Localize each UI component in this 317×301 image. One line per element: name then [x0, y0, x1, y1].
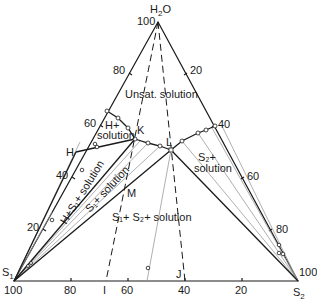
point-l-label: L — [166, 136, 172, 148]
point-k-label: K — [137, 124, 145, 136]
region-s2-solution: solution — [194, 162, 232, 174]
vertex-s2-label: S2 — [293, 286, 305, 301]
point-i-label: I — [103, 284, 106, 296]
point-j-label: J — [176, 268, 182, 280]
right-tick-80: 80 — [276, 223, 288, 235]
left-tick-100: 100 — [137, 15, 155, 27]
right-tick-100: 100 — [299, 266, 317, 278]
ternary-phase-diagram: H2O S1 S2 100 80 60 40 20 20 40 60 80 10… — [0, 0, 317, 301]
bottom-tick-60: 60 — [121, 284, 133, 296]
region-unsat-solution: Unsat. solution — [125, 88, 198, 100]
right-tick-20: 20 — [190, 64, 202, 76]
region-h-solution: solution — [97, 129, 135, 141]
right-tick-60: 60 — [247, 170, 259, 182]
left-tick-80: 80 — [113, 64, 125, 76]
point-m-label: M — [127, 187, 136, 199]
region-s1-s2-solution: S₁+ S₂+ solution — [112, 211, 192, 223]
vertex-s1-label: S1 — [2, 266, 14, 281]
bottom-tick-80: 80 — [64, 284, 76, 296]
right-tick-40: 40 — [218, 118, 230, 130]
left-tick-60: 60 — [84, 117, 96, 129]
bottom-tick-20: 20 — [235, 284, 247, 296]
left-tick-40: 40 — [56, 169, 68, 181]
left-tick-20: 20 — [27, 221, 39, 233]
phase-boundaries — [14, 111, 298, 281]
bottom-tick-40: 40 — [178, 284, 190, 296]
bottom-tick-100: 100 — [4, 284, 22, 296]
point-h-label: H — [66, 146, 74, 158]
